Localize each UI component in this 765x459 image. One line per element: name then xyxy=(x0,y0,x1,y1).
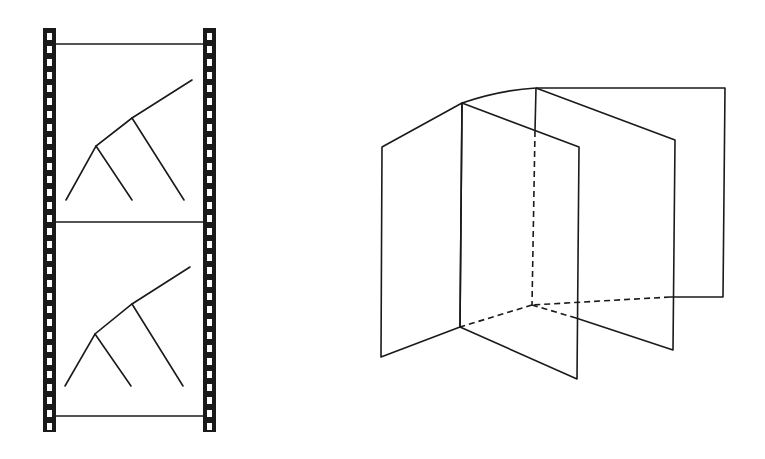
film-strip-right-edge xyxy=(203,28,216,432)
folded-panels xyxy=(381,88,725,379)
left-panel xyxy=(381,103,462,357)
back-panel-hidden-bottom xyxy=(532,297,670,305)
diagram-canvas xyxy=(0,0,765,459)
hidden-spine-dashed xyxy=(532,131,535,305)
hidden-floor-front xyxy=(460,305,532,327)
film-strip-left-edge xyxy=(43,28,56,432)
third-panel xyxy=(536,88,675,350)
third-panel-hidden-bottom xyxy=(532,305,576,318)
frame-2-branch-drawing xyxy=(65,267,190,386)
frame-1-branch-drawing xyxy=(66,80,192,200)
back-panel xyxy=(462,88,725,297)
film-strip xyxy=(43,28,216,432)
hidden-spine-solid xyxy=(535,88,536,131)
middle-panel xyxy=(460,103,579,379)
